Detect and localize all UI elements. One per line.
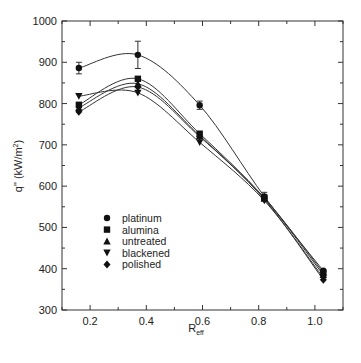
y-tick-label: 900	[39, 56, 57, 68]
markers	[75, 41, 327, 284]
data-point-platinum	[196, 102, 202, 108]
plot-frame	[62, 21, 343, 310]
y-tick-label: 300	[39, 304, 57, 316]
y-tick-label: 400	[39, 263, 57, 275]
series-line-platinum	[79, 54, 323, 271]
legend-marker-polished	[104, 260, 111, 268]
series-line-polished	[79, 87, 323, 280]
x-tick-label: 0.8	[251, 315, 266, 327]
legend-marker-blackened	[103, 250, 110, 257]
legend-marker-platinum	[104, 215, 110, 221]
ticks	[62, 21, 343, 310]
legend: platinumaluminauntreatedblackenedpolishe…	[103, 212, 170, 270]
legend-label-blackened: blackened	[122, 247, 170, 259]
data-point-platinum	[76, 65, 82, 71]
x-tick-label: 0.2	[82, 315, 97, 327]
y-tick-label: 1000	[33, 15, 57, 27]
legend-label-untreated: untreated	[122, 235, 167, 247]
y-tick-label: 500	[39, 221, 57, 233]
curves	[79, 54, 323, 280]
x-axis-label-subscript: eff	[196, 329, 204, 336]
series-line-untreated	[79, 83, 323, 275]
y-tick-labels: 3004005006007008009001000	[33, 15, 57, 316]
data-point-blackened	[75, 93, 82, 100]
x-tick-label: 0.6	[195, 315, 210, 327]
legend-label-alumina: alumina	[122, 224, 159, 236]
series-line-blackened	[79, 90, 323, 278]
x-tick-label: 0.4	[139, 315, 154, 327]
x-tick-labels: 0.20.40.60.81.0	[82, 315, 322, 327]
x-tick-label: 1.0	[307, 315, 322, 327]
y-tick-label: 800	[39, 98, 57, 110]
chart: 0.20.40.60.81.0 300400500600700800900100…	[0, 0, 361, 363]
y-axis-label: q" (kW/m2)	[12, 140, 24, 192]
y-tick-label: 600	[39, 180, 57, 192]
legend-label-platinum: platinum	[122, 212, 162, 224]
legend-marker-alumina	[104, 226, 110, 232]
y-axis-label-suffix: )	[12, 140, 24, 144]
y-tick-label: 700	[39, 139, 57, 151]
data-point-platinum	[135, 52, 141, 58]
legend-marker-untreated	[103, 238, 110, 245]
legend-label-polished: polished	[122, 258, 161, 270]
